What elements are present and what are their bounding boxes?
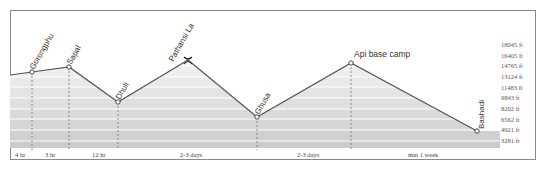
y-tick-label: 9843 ft: [501, 94, 520, 101]
y-tick-label: 6562 ft: [501, 116, 520, 123]
y-tick-label: 4921 ft: [501, 126, 520, 133]
y-tick-label: 14765 ft: [501, 62, 523, 69]
y-tick-label: 18045 ft: [501, 41, 523, 48]
segment-duration: 4 hr: [15, 151, 26, 158]
elevation-profile-chart: Gorongphu Sapal Dhuli Pathansi La Ghusa …: [0, 0, 545, 172]
waypoint-label: Api base camp: [354, 49, 410, 59]
segment-duration: min 1 week: [408, 151, 439, 158]
y-tick-label: 8202 ft: [501, 105, 520, 112]
y-tick-label: 16405 ft: [501, 52, 523, 59]
segment-duration: 2-3 days: [180, 151, 203, 158]
y-tick-label: 11483 ft: [501, 84, 523, 91]
waypoint-label: Bashadi: [477, 100, 486, 129]
segment-duration: 2-3 days: [297, 151, 320, 158]
y-tick-label: 3281 ft: [501, 137, 520, 144]
waypoint-marker-api-base-camp[interactable]: [349, 61, 353, 65]
segment-duration: 3 hr: [45, 151, 56, 158]
segment-duration: 12 hr: [92, 151, 106, 158]
y-tick-label: 13124 ft: [501, 73, 523, 80]
